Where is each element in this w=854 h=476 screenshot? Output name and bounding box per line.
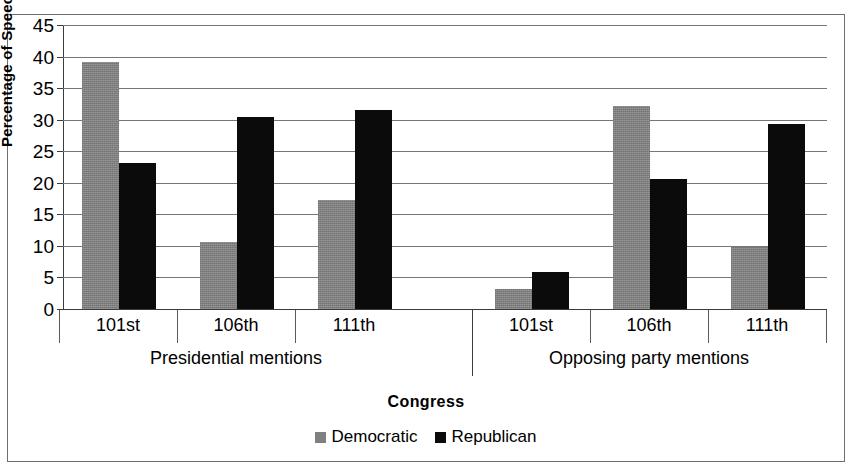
y-tick-label-20: 20 (33, 173, 54, 192)
y-tick-25 (57, 151, 63, 152)
legend-swatch-republican (435, 432, 446, 443)
chart-legend: DemocraticRepublican (8, 427, 844, 447)
category-label-5: 111th (746, 315, 788, 336)
group-divider (472, 310, 473, 376)
category-label-4: 106th (626, 315, 671, 336)
y-tick-label-40: 40 (33, 47, 54, 66)
bar-democratic-2 (318, 200, 355, 309)
category-label-3: 101st (509, 315, 553, 336)
category-label-0: 101st (96, 315, 140, 336)
legend-item-democratic: Democratic (315, 427, 417, 447)
category-divider-start (59, 310, 60, 343)
category-divider-4 (590, 310, 591, 343)
bar-republican-1 (237, 117, 274, 309)
y-tick-15 (57, 214, 63, 215)
y-axis-title: Percentage of Speeches (0, 0, 15, 147)
bar-republican-2 (355, 110, 392, 309)
bar-republican-0 (119, 163, 156, 309)
bar-democratic-4 (613, 106, 650, 309)
legend-item-republican: Republican (435, 427, 536, 447)
bar-democratic-5 (731, 247, 768, 309)
y-tick-label-10: 10 (33, 236, 54, 255)
y-tick-45 (57, 25, 63, 26)
group-label-1: Opposing party mentions (549, 348, 749, 369)
y-tick-20 (57, 183, 63, 184)
y-tick-label-25: 25 (33, 142, 54, 161)
category-divider-5 (708, 310, 709, 343)
legend-swatch-democratic (315, 432, 326, 443)
y-tick-10 (57, 246, 63, 247)
y-tick-30 (57, 120, 63, 121)
y-tick-5 (57, 277, 63, 278)
bar-democratic-1 (200, 242, 237, 309)
y-tick-35 (57, 88, 63, 89)
legend-label-democratic: Democratic (331, 427, 417, 447)
category-label-2: 111th (333, 315, 375, 336)
y-tick-label-15: 15 (33, 205, 54, 224)
bar-democratic-0 (82, 62, 119, 309)
category-divider-2 (295, 310, 296, 343)
category-axis: 101st106th111th101st106th111thPresidenti… (63, 309, 827, 393)
y-tick-label-5: 5 (43, 268, 54, 287)
bar-series-container (64, 25, 827, 309)
y-tick-40 (57, 57, 63, 58)
plot-area: 454035302520151050 (63, 25, 827, 309)
bar-democratic-3 (495, 289, 532, 309)
bar-republican-3 (532, 272, 569, 309)
group-label-0: Presidential mentions (150, 348, 322, 369)
category-label-1: 106th (213, 315, 258, 336)
bar-republican-4 (650, 179, 687, 309)
legend-label-republican: Republican (451, 427, 536, 447)
category-divider-1 (177, 310, 178, 343)
bar-republican-5 (768, 124, 805, 309)
y-tick-label-45: 45 (33, 16, 54, 35)
x-axis-title: Congress (8, 393, 844, 411)
category-divider-end (826, 310, 827, 343)
y-tick-label-35: 35 (33, 79, 54, 98)
y-tick-label-0: 0 (43, 300, 54, 319)
chart-figure: Percentage of Speeches 45403530252015105… (7, 14, 845, 462)
y-tick-label-30: 30 (33, 110, 54, 129)
